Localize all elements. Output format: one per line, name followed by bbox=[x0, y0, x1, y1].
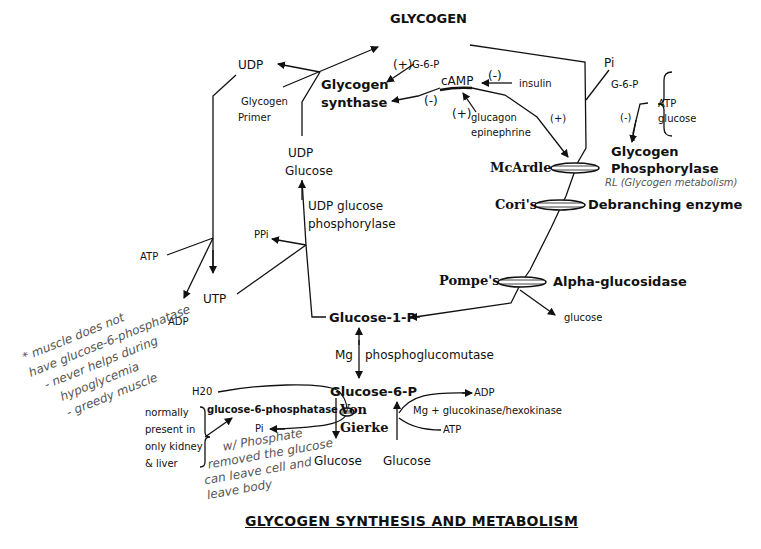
node-udp-glucose-2: Glucose bbox=[285, 165, 333, 177]
node-glucose-brace: glucose bbox=[658, 114, 696, 124]
note-normally-1: normally bbox=[145, 408, 189, 418]
line-atp-right bbox=[399, 418, 441, 430]
node-glycogen-synthase-2: synthase bbox=[321, 96, 387, 109]
block-mcardle bbox=[551, 163, 599, 173]
line-pi-in bbox=[586, 70, 609, 100]
arrow-to-udp bbox=[278, 64, 320, 72]
node-glycogen-synthase-1: Glycogen bbox=[321, 78, 389, 91]
node-atp-left: ATP bbox=[140, 252, 158, 262]
node-alpha-glucosidase: Alpha-glucosidase bbox=[553, 275, 687, 288]
node-glycogen-phosphorylase-2: Phosphorylase bbox=[611, 162, 719, 175]
node-glycogen-primer-2: Primer bbox=[238, 113, 271, 123]
node-g6p-right: G-6-P bbox=[611, 80, 638, 90]
note-normally-3: only kidney bbox=[145, 442, 203, 452]
node-pi-top: Pi bbox=[604, 57, 614, 69]
node-glucose-pompe: glucose bbox=[564, 313, 602, 323]
sign-plus-g6p: (+) bbox=[393, 59, 412, 71]
node-epinephrine: epinephrine bbox=[471, 128, 531, 138]
block-pompe bbox=[498, 277, 546, 287]
line-udp-glucose-to-branch bbox=[302, 72, 320, 136]
node-glucokinase: Mg + glucokinase/hexokinase bbox=[413, 406, 562, 416]
disease-mcardle: McArdle bbox=[490, 161, 552, 174]
note-normally-4: & liver bbox=[145, 459, 178, 469]
node-g6p-top: G-6-P bbox=[412, 60, 439, 70]
line-udp-down bbox=[213, 75, 236, 268]
disease-von-gierke-1: Von bbox=[340, 403, 367, 416]
node-mg: Mg bbox=[335, 349, 353, 361]
node-camp: cAMP bbox=[441, 75, 473, 87]
node-h2o: H20 bbox=[192, 387, 212, 397]
node-udp: UDP bbox=[238, 59, 263, 71]
line-glycogen-breakdown bbox=[470, 45, 586, 162]
node-glycogen-primer-1: Glycogen bbox=[241, 97, 288, 107]
node-glucose-6-p: Glucose-6-P bbox=[330, 385, 417, 398]
node-adp-right: ADP bbox=[474, 388, 495, 398]
node-glycogen-phosphorylase-1: Glycogen bbox=[611, 145, 679, 158]
node-udp-glucose-phosphorylase-2: phosphorylase bbox=[308, 218, 396, 230]
node-glucose-bottom-right: Glucose bbox=[383, 455, 431, 467]
node-udp-glucose-phosphorylase-1: UDP glucose bbox=[308, 200, 383, 212]
node-glycogen: GLYCOGEN bbox=[390, 12, 467, 25]
disease-pompe: Pompe's bbox=[439, 274, 500, 287]
camp-underline bbox=[440, 88, 472, 90]
node-udp-glucose-1: UDP bbox=[288, 147, 313, 159]
sign-plus-phosphorylase: (+) bbox=[550, 114, 566, 124]
arrow-to-ppi bbox=[272, 239, 306, 245]
glycogen-diagram: GLYCOGEN UDP (+) G-6-P Glycogen synthase… bbox=[0, 0, 761, 549]
node-glucose-6-phosphatase: glucose-6-phosphatase bbox=[207, 405, 338, 415]
node-glucagon: glucagon bbox=[471, 113, 517, 123]
disease-von-gierke-2: Gierke bbox=[340, 421, 388, 434]
note-rl: RL (Glycogen metabolism) bbox=[605, 178, 738, 188]
node-glucose-1-p: Glucose-1-P bbox=[329, 311, 416, 324]
node-atp-right: ATP bbox=[443, 425, 461, 435]
node-phosphoglucomutase: phosphoglucomutase bbox=[365, 349, 494, 361]
diagram-title: GLYCOGEN SYNTHESIS AND METABOLISM bbox=[245, 514, 578, 528]
sign-minus-insulin: (-) bbox=[488, 70, 502, 82]
node-utp: UTP bbox=[203, 293, 226, 305]
disease-cori: Cori's bbox=[495, 198, 537, 211]
sign-minus-brace: (-) bbox=[620, 113, 631, 123]
node-ppi: PPi bbox=[254, 230, 269, 240]
block-cori bbox=[535, 200, 585, 210]
arrow-normally bbox=[205, 418, 232, 437]
node-debranching-enzyme: Debranching enzyme bbox=[588, 198, 742, 211]
note-normally-2: present in bbox=[145, 425, 195, 435]
sign-minus-camp: (-) bbox=[424, 95, 438, 107]
node-atp-brace: ATP bbox=[658, 99, 676, 109]
line-breakdown-main bbox=[415, 162, 578, 317]
arrow-pompe-glucose bbox=[520, 290, 555, 315]
node-insulin: insulin bbox=[519, 79, 552, 89]
line-utp-in bbox=[237, 245, 306, 294]
sign-plus-glucagon: (+) bbox=[452, 108, 471, 120]
